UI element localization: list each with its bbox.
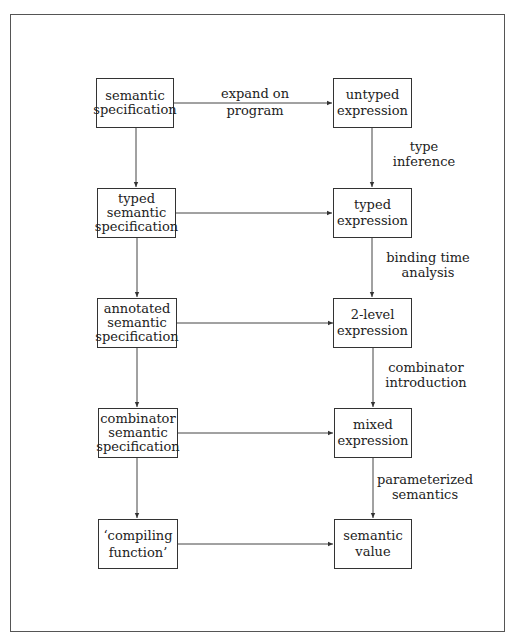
- node-untyped-expression: untyped expression: [333, 78, 412, 128]
- node-2-level-expression: 2-level expression: [333, 298, 412, 348]
- node-label: typed expression: [337, 197, 408, 229]
- edge-label-parameterized-semantics: parameterized semantics: [375, 472, 475, 502]
- edge-label-binding-time-analysis: binding time analysis: [378, 250, 478, 280]
- node-combinator-semantic-specification: combinator semantic specification: [98, 408, 178, 458]
- node-semantic-specification: semantic specification: [96, 78, 174, 128]
- node-label: semantic value: [343, 528, 402, 560]
- node-compiling-function: ‘compiling function’: [98, 519, 178, 569]
- node-label: mixed expression: [338, 417, 409, 449]
- node-label: typed semantic specification: [95, 192, 178, 234]
- node-label: annotated semantic specification: [95, 302, 178, 344]
- edge-label-combinator-introduction: combinator introduction: [380, 360, 472, 390]
- node-label: untyped expression: [337, 87, 408, 119]
- edge-label-type-inference: type inference: [384, 139, 464, 169]
- node-label: semantic specification: [93, 89, 176, 117]
- node-semantic-value: semantic value: [334, 519, 412, 569]
- node-mixed-expression: mixed expression: [334, 408, 412, 458]
- node-typed-semantic-specification: typed semantic specification: [97, 188, 176, 238]
- node-annotated-semantic-specification: annotated semantic specification: [97, 298, 177, 348]
- node-typed-expression: typed expression: [333, 188, 412, 238]
- node-label: ‘compiling function’: [103, 527, 172, 561]
- node-label: combinator semantic specification: [96, 412, 179, 454]
- edge-label-expand-on-program: expand on program: [200, 85, 310, 119]
- node-label: 2-level expression: [337, 307, 408, 339]
